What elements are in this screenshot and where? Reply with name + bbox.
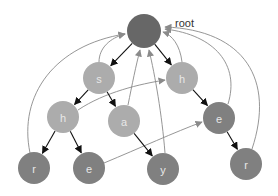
node-a: a (108, 105, 140, 137)
tree-edge-a-y (134, 133, 152, 155)
node-label: r (32, 163, 36, 175)
node-y: y (147, 153, 179, 185)
node-s: s (83, 62, 115, 94)
node-label: h (179, 73, 185, 85)
diagram-canvas: shhaereyr root (0, 0, 278, 196)
node-r2: r (230, 148, 262, 180)
node-h2: h (47, 101, 79, 133)
node-label: e (86, 163, 92, 175)
tree-edge-root-s (111, 43, 132, 65)
tree-edge-h1-e1 (193, 90, 208, 106)
tree-edge-root-h1 (155, 44, 172, 65)
node-h1: h (166, 62, 198, 94)
tree-edge-h2-e2 (70, 131, 81, 153)
node-e1: e (203, 102, 235, 134)
node-root (127, 14, 161, 48)
node-label: y (160, 164, 166, 176)
node-label: h (60, 112, 66, 124)
node-label: e (216, 113, 222, 125)
tree-edge-s-a (107, 92, 115, 106)
node-circle (127, 14, 161, 48)
suffix-link-s-root (99, 34, 125, 62)
tree-edges (42, 43, 237, 156)
node-label: a (121, 116, 128, 128)
trie-diagram: shhaereyr root (0, 0, 278, 196)
tree-edge-h2-r1 (42, 131, 55, 153)
suffix-link-a-root (128, 50, 140, 105)
node-e2: e (73, 152, 105, 184)
root-label: root (175, 17, 194, 29)
node-label: r (244, 159, 248, 171)
tree-edge-e1-r2 (227, 132, 237, 150)
tree-edge-s-h2 (75, 90, 89, 105)
node-label: s (96, 73, 102, 85)
trie-nodes: shhaereyr (18, 14, 262, 185)
node-r1: r (18, 152, 50, 184)
